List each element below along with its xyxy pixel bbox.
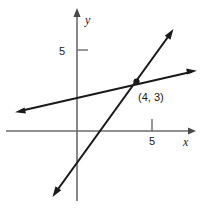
x-axis-arrow-icon xyxy=(188,127,196,134)
y-axis-label: y xyxy=(84,13,91,27)
x-axis xyxy=(6,119,196,135)
y-axis-arrow-icon xyxy=(73,8,80,17)
shallow-line-left-arrow-icon xyxy=(15,108,26,114)
x-axis-label: x xyxy=(182,135,189,149)
shallow-line-series xyxy=(15,69,197,114)
steep-line xyxy=(57,36,169,191)
coordinate-plane-plot: y x 5 5 (4, 3) xyxy=(0,0,202,211)
x-axis-tick-label-5: 5 xyxy=(149,135,155,147)
intersection-point-marker xyxy=(133,78,139,84)
graph-figure: y x 5 5 (4, 3) xyxy=(0,0,202,211)
steep-line-series xyxy=(53,29,174,197)
shallow-line xyxy=(20,72,192,111)
y-axis-tick-label-5: 5 xyxy=(59,45,65,57)
intersection-point-label: (4, 3) xyxy=(138,91,164,103)
shallow-line-right-arrow-icon xyxy=(186,69,197,75)
y-axis xyxy=(73,8,88,201)
